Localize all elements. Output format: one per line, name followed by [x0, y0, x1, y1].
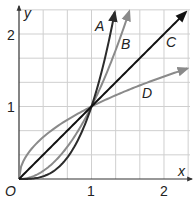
y-tick-2: 2 [7, 27, 15, 43]
x-tick-2: 2 [160, 183, 168, 198]
label-c: C [166, 34, 177, 50]
x-axis-label: x [177, 163, 186, 179]
label-a: A [94, 18, 104, 34]
y-axis-label: y [23, 5, 32, 21]
curve-c [19, 12, 186, 179]
graph: y x O 1 2 1 2 A B C D [0, 0, 195, 198]
label-d: D [142, 85, 152, 101]
origin-label: O [5, 183, 16, 198]
curve-d [19, 69, 187, 179]
y-tick-1: 1 [7, 99, 15, 115]
label-b: B [121, 36, 130, 52]
x-tick-1: 1 [87, 183, 95, 198]
curve-b [19, 12, 129, 180]
